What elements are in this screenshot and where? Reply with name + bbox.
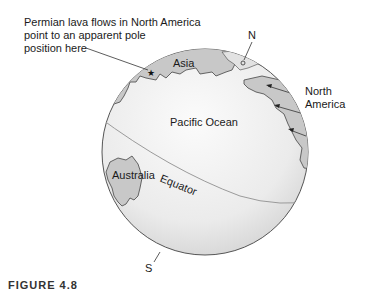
callout-text: Permian lava flows in North America poin… — [24, 16, 201, 55]
australia-label: Australia — [112, 169, 155, 182]
north-pole-label: N — [248, 29, 256, 42]
asia-label: Asia — [173, 57, 194, 70]
svg-text:★: ★ — [147, 68, 155, 78]
pacific-ocean-label: Pacific Ocean — [170, 116, 238, 129]
north-america-label: North America — [305, 85, 345, 111]
south-pole-label: S — [145, 262, 152, 275]
figure-caption: FIGURE 4.8 — [8, 279, 78, 291]
